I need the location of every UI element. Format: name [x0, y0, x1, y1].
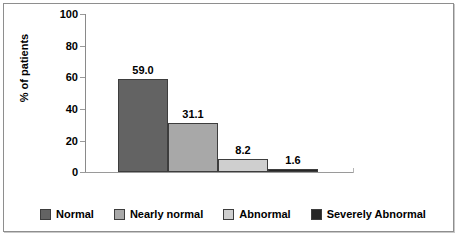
legend-item-severely-abnormal[interactable]: Severely Abnormal — [311, 209, 426, 220]
y-tick-label-text: 40 — [48, 104, 78, 115]
y-tick-label-40: 40 — [48, 104, 78, 115]
y-tick-label-0: 0 — [48, 167, 78, 178]
legend-swatch-icon — [311, 209, 322, 220]
y-axis-title: % of patients — [18, 28, 30, 108]
bar-abnormal[interactable] — [218, 159, 268, 172]
legend-swatch-icon — [223, 209, 234, 220]
bar-severely-abnormal[interactable] — [268, 169, 318, 172]
y-tick-label-20: 20 — [48, 136, 78, 147]
legend-swatch-icon — [114, 209, 125, 220]
y-tick-label-100: 100 — [48, 9, 78, 20]
legend-item-nearly-normal[interactable]: Nearly normal — [114, 209, 203, 220]
y-tick-label-text: 100 — [48, 9, 78, 20]
bar-normal[interactable] — [118, 79, 168, 172]
y-tick-label-text: 0 — [48, 167, 78, 178]
chart-figure: % of patients 100 80 60 40 20 0 59.0 31.… — [0, 0, 459, 237]
legend-label: Severely Abnormal — [327, 209, 426, 220]
legend-item-abnormal[interactable]: Abnormal — [223, 209, 290, 220]
y-tick-label-60: 60 — [48, 72, 78, 83]
x-axis-end-tick — [353, 168, 354, 173]
legend-label: Abnormal — [239, 209, 290, 220]
legend-item-normal[interactable]: Normal — [40, 209, 94, 220]
y-tick-label-text: 20 — [48, 136, 78, 147]
x-axis-line — [85, 172, 354, 173]
y-tick-label-80: 80 — [48, 41, 78, 52]
chart-legend: Normal Nearly normal Abnormal Severely A… — [40, 204, 420, 224]
legend-swatch-icon — [40, 209, 51, 220]
bar-label-abnormal: 8.2 — [218, 145, 268, 156]
y-tick-label-text: 60 — [48, 72, 78, 83]
bar-label-nearly-normal: 31.1 — [168, 109, 218, 120]
bar-label-severely-abnormal: 1.6 — [268, 155, 318, 166]
legend-label: Normal — [56, 209, 94, 220]
legend-label: Nearly normal — [130, 209, 203, 220]
y-tick-label-text: 80 — [48, 41, 78, 52]
bar-label-normal: 59.0 — [118, 65, 168, 76]
plot-area: 59.0 31.1 8.2 1.6 — [85, 14, 353, 172]
bar-nearly-normal[interactable] — [168, 123, 218, 172]
